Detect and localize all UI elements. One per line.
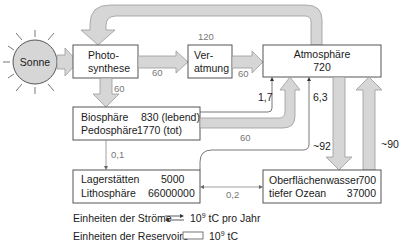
flow-value-0-1: 0,1 [111,149,124,160]
legend-reservoir-unit: 109 tC [209,230,238,242]
flow-arrow-ocean-to-atmosphere [356,77,382,170]
arrowhead-6-3-icon [307,77,311,81]
ocean-row2-value: 37000 [347,187,376,199]
legend-reservoir-box-icon [183,232,203,239]
flow-value-photosynthesis-respiration: 60 [152,67,163,78]
respiration-label-line1: Ver- [194,49,214,61]
biosphere-row1-label: Biosphäre [81,111,128,123]
lithosphere-row1-value: 5000 [161,173,185,185]
biosphere-row2-value: 1770 (tot) [137,124,182,136]
arrowhead-right-icon [259,185,263,189]
ocean-row1-value: 700 [358,174,376,186]
legend-flows-label: Einheiten der Ströme [73,212,172,224]
flow-arrow-atmosphere-to-ocean [326,77,352,170]
flow-arrow-biosphere-to-atmosphere [200,77,300,128]
carbon-cycle-diagram: 120 Sonne Photo- synthese 60 Ver- atmung… [0,0,402,246]
sun-label: Sonne [20,56,51,68]
atmosphere-label: Atmosphäre [294,48,351,60]
legend-flows-unit: 109 tC pro Jahr [190,212,261,224]
flow-value-photosynthesis-biosphere: 60 [114,83,125,94]
flow-value-120: 120 [198,31,214,42]
flow-value-90: ~90 [381,138,399,150]
flow-arrow-photosynthesis-to-respiration [138,51,188,73]
legend-reservoir-label: Einheiten der Reservoire [73,230,189,242]
arrowhead-0-1-icon [104,166,108,170]
flow-value-biosphere-atmosphere: 60 [240,132,251,143]
flow-value-respiration-atmosphere: 60 [238,68,249,79]
arrowhead-left-icon [200,185,204,189]
arrowhead-1-7-icon [270,77,274,81]
lithosphere-row2-value: 66000000 [148,187,195,199]
flow-value-0-2: 0,2 [226,189,239,200]
photosynthesis-label-line1: Photo- [88,49,119,61]
biosphere-row1-value: 830 (lebend) [141,111,200,123]
lithosphere-row1-label: Lagerstätten [81,173,140,185]
photosynthesis-label-line2: synthese [88,62,130,74]
respiration-label-line2: atmung [194,62,229,74]
biosphere-row2-label: Pedosphäre [81,124,138,136]
lithosphere-row2-label: Lithosphäre [81,187,136,199]
flow-value-1-7: 1,7 [258,91,273,103]
ocean-row1-label: Oberflächenwasser [269,174,360,186]
flow-value-6-3: 6,3 [313,91,328,103]
ocean-row2-label: tiefer Ozean [269,187,326,199]
legend: Einheiten der Ströme 109 tC pro Jahr Ein… [73,212,261,242]
atmosphere-value: 720 [313,61,331,73]
flow-value-92: ~92 [313,140,331,152]
